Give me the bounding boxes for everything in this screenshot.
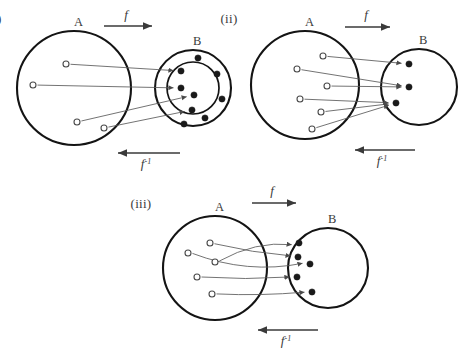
codomain-element-0 xyxy=(406,61,412,67)
inverse-map-superscript: -1 xyxy=(380,154,387,163)
domain-element-4 xyxy=(318,109,324,115)
domain-element-1 xyxy=(185,250,191,256)
codomain-outside-image-element-3 xyxy=(202,115,208,121)
image-element-0 xyxy=(178,68,184,74)
panel-roman-label-0: (i) xyxy=(0,11,2,26)
codomain-element-2 xyxy=(307,261,313,267)
domain-element-4 xyxy=(209,291,215,297)
codomain-element-2 xyxy=(393,100,399,106)
domain-element-3 xyxy=(297,96,303,102)
panel-roman-label-1: (ii) xyxy=(220,11,237,26)
panel-roman-label-2: (iii) xyxy=(131,196,152,211)
image-element-3 xyxy=(189,107,195,113)
codomain-outside-image-element-2 xyxy=(219,96,225,102)
domain-element-3 xyxy=(101,125,107,131)
function-diagram-figure: (i)ABff-1(ii)ABff-1(iii)ABff-1 xyxy=(0,0,474,356)
image-element-2 xyxy=(191,92,197,98)
domain-element-2 xyxy=(212,259,218,265)
inverse-map-superscript: -1 xyxy=(144,157,151,166)
inverse-map-superscript: -1 xyxy=(284,334,291,343)
domain-element-2 xyxy=(324,83,330,89)
set-b-label: B xyxy=(419,33,427,47)
domain-element-1 xyxy=(30,82,36,88)
codomain-element-1 xyxy=(295,254,301,260)
domain-element-0 xyxy=(63,61,69,67)
set-a-label: A xyxy=(305,15,314,29)
set-a-label: A xyxy=(74,15,83,29)
codomain-element-1 xyxy=(406,84,412,90)
codomain-outside-image-element-1 xyxy=(214,71,220,77)
domain-element-0 xyxy=(207,240,213,246)
codomain-element-0 xyxy=(296,240,302,246)
domain-element-3 xyxy=(194,274,200,280)
codomain-outside-image-element-4 xyxy=(181,121,187,127)
domain-element-0 xyxy=(320,53,326,59)
codomain-element-4 xyxy=(309,289,315,295)
codomain-element-3 xyxy=(294,274,300,280)
set-a-label: A xyxy=(215,200,224,214)
set-b-label: B xyxy=(328,212,336,226)
codomain-outside-image-element-0 xyxy=(195,55,201,61)
domain-element-5 xyxy=(309,126,315,132)
set-b-label: B xyxy=(193,34,201,48)
image-element-1 xyxy=(178,85,184,91)
domain-element-2 xyxy=(74,119,80,125)
domain-element-1 xyxy=(294,66,300,72)
